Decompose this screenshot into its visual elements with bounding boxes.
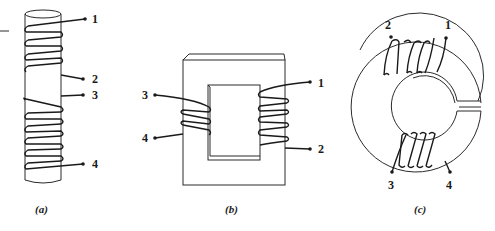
terminal-2-dot — [81, 77, 85, 81]
upper-coil — [25, 19, 85, 79]
terminal-2-label: 2 — [318, 142, 324, 156]
terminal-4-dot — [448, 170, 452, 174]
upper-coil — [384, 38, 434, 75]
terminal-4-label: 4 — [92, 157, 98, 171]
terminal-4-label: 4 — [142, 131, 148, 145]
cylinder-top — [25, 10, 61, 18]
coil-diagram-figure: 1 2 3 4 (a) — [0, 0, 495, 231]
cylinder-bottom — [25, 180, 61, 183]
panel-c-caption: (c) — [414, 203, 426, 216]
panel-a-caption: (a) — [35, 203, 48, 216]
terminal-3-dot — [390, 170, 394, 174]
terminal-2-label: 2 — [385, 18, 391, 32]
toroid-outer-rim — [360, 13, 484, 101]
terminal-2-label: 2 — [92, 72, 98, 86]
terminal-1-label: 1 — [318, 76, 324, 90]
terminal-1-label: 1 — [92, 12, 98, 26]
right-coil — [259, 82, 311, 149]
terminal-1-dot — [83, 17, 87, 21]
terminal-3-label: 3 — [388, 178, 394, 192]
terminal-1-label: 1 — [445, 18, 451, 32]
terminal-4-dot — [153, 136, 157, 140]
core-top-bevel — [183, 54, 285, 60]
panel-c-toroid: 2 1 3 4 (c) — [351, 13, 483, 216]
panel-a-cylinder-coils: 1 2 3 4 (a) — [24, 10, 98, 216]
terminal-4-dot — [81, 162, 85, 166]
toroid-inner — [391, 72, 457, 140]
terminal-3-dot — [81, 93, 85, 97]
terminal-1-dot — [308, 80, 312, 84]
panel-b-rectangular-core: 1 2 3 4 (b) — [142, 54, 324, 216]
toroid-inner-rim — [413, 76, 455, 103]
terminal-3-label: 3 — [92, 88, 98, 102]
lower-coil — [24, 95, 83, 169]
core-window — [208, 85, 260, 160]
panel-b-caption: (b) — [225, 203, 238, 216]
window-bevel — [208, 85, 260, 156]
terminal-4-label: 4 — [446, 178, 452, 192]
terminal-3-label: 3 — [142, 88, 148, 102]
terminal-3-dot — [153, 93, 157, 97]
terminal-2-dot — [308, 147, 312, 151]
terminal-2-dot — [389, 35, 393, 39]
